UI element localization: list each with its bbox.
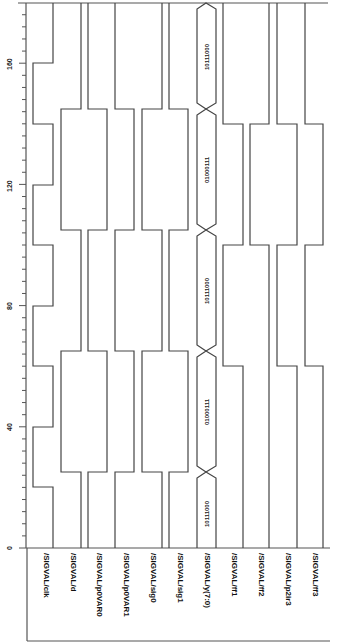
signal-label-p0VAR1: /SIGVAL/p0VAR1 — [122, 553, 131, 617]
waveform-p0VAR0 — [88, 3, 107, 548]
time-ticks — [19, 15, 26, 548]
signal-label-y: /SIGVAL/y(7:0) — [203, 553, 212, 608]
bus-value-0: 10111000 — [204, 500, 210, 527]
waveform-p2ir3 — [277, 3, 297, 548]
tick-label-0: 0 — [6, 546, 13, 550]
bus-value-1: 01000111 — [204, 398, 210, 425]
bus-value-4: 10111000 — [204, 43, 210, 70]
signal-label-p2ir3: /SIGVAL/p2ir3 — [284, 553, 293, 606]
waveform-sig1 — [169, 3, 188, 548]
bus-value-2: 10111000 — [204, 277, 210, 304]
waveform-ff3 — [305, 3, 323, 548]
waveform-y-bus — [197, 3, 216, 548]
signal-label-sig1: /SIGVAL/sig1 — [176, 553, 185, 603]
tick-label-120: 120 — [6, 180, 13, 192]
waveform-sig0 — [142, 3, 162, 548]
signal-label-clk: /SIGVAL/clk — [42, 553, 51, 598]
signal-label-p0VAR0: /SIGVAL/p0VAR0 — [95, 553, 104, 617]
signal-label-ff3: /SIGVAL/ff3 — [311, 553, 320, 597]
signal-label-sig0: /SIGVAL/sig0 — [149, 553, 158, 603]
tick-label-160: 160 — [6, 58, 13, 70]
waveform-p0VAR1 — [115, 3, 134, 548]
timing-diagram: 0 40 80 120 160 10111000 01000111 101110… — [0, 0, 340, 643]
bus-value-3: 01000111 — [204, 156, 210, 183]
waveform-ff2 — [250, 3, 269, 548]
waveform-d — [61, 3, 81, 548]
signal-label-ff1: /SIGVAL/ff1 — [230, 553, 239, 597]
signal-label-d: /SIGVAL/d — [69, 553, 78, 592]
waveform-ff1 — [223, 3, 243, 548]
tick-label-80: 80 — [6, 302, 13, 310]
signal-label-ff2: /SIGVAL/ff2 — [257, 553, 266, 597]
tick-label-40: 40 — [6, 423, 13, 431]
waveform-clk — [33, 3, 53, 548]
